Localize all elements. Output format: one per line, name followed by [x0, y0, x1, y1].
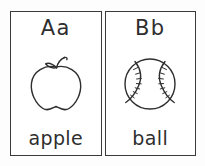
apple-illustration — [11, 39, 101, 129]
word-label-apple: apple — [28, 129, 83, 148]
letter-heading-b: Bb — [135, 18, 166, 39]
letter-heading-a: Aa — [41, 18, 71, 39]
flashcard-a[interactable]: Aa apple — [10, 11, 102, 156]
flashcard-b[interactable]: Bb — [105, 11, 197, 156]
flashcard-row: Aa apple Bb — [10, 11, 196, 156]
baseball-illustration — [106, 39, 196, 129]
worksheet-sheet: Aa apple Bb — [0, 0, 205, 166]
word-label-ball: ball — [132, 129, 168, 148]
